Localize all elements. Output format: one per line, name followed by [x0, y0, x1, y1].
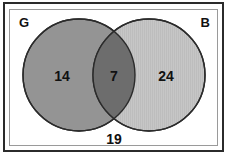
venn-diagram-figure: G B 14 7 24 19	[0, 0, 229, 157]
count-right-only: 24	[158, 69, 174, 83]
count-left-only: 14	[54, 69, 70, 83]
count-outside: 19	[106, 132, 122, 146]
count-intersection: 7	[110, 69, 118, 83]
venn-stage: G B 14 7 24 19	[0, 0, 229, 157]
set-label-left: G	[19, 16, 29, 29]
set-label-right: B	[201, 16, 210, 29]
